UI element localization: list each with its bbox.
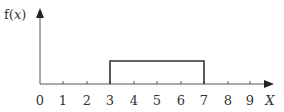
x-axis-label: X xyxy=(264,93,275,108)
y-axis-label: f(x) xyxy=(4,7,26,22)
tick-label: 2 xyxy=(83,93,91,108)
uniform-distribution-chart: f(x) 0 1 2 3 4 5 6 7 8 9 X xyxy=(0,0,284,112)
tick-label: 7 xyxy=(200,93,208,108)
x-axis-arrow-icon xyxy=(264,80,274,88)
y-axis-arrow-icon xyxy=(36,8,44,18)
tick-label: 8 xyxy=(224,93,232,108)
tick-label: 9 xyxy=(246,93,254,108)
tick-label: 6 xyxy=(177,93,185,108)
x-tick-labels: 0 1 2 3 4 5 6 7 8 9 X xyxy=(36,93,276,108)
tick-label: 4 xyxy=(130,93,138,108)
tick-label: 3 xyxy=(106,93,114,108)
tick-label: 5 xyxy=(153,93,161,108)
tick-label: 0 xyxy=(36,93,44,108)
tick-label: 1 xyxy=(59,93,67,108)
density-rectangle xyxy=(110,61,204,84)
